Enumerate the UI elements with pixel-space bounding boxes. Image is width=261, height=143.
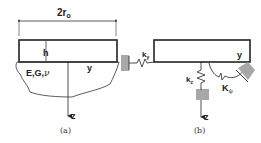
z-axis-label: z [71,111,76,121]
dimension-label: 2ro [57,7,71,19]
rotational-support [238,62,255,80]
caption-b: (b) [194,126,205,135]
foundation-model-diagram: 2ro h E,G,ν y z (a) ky y kz z [0,0,261,143]
kpsi-label: Kψ [222,83,233,94]
caption-a: (a) [60,126,71,135]
y-axis-label: y [87,63,92,73]
ky-label: ky [142,50,149,60]
spring-kz [197,62,205,90]
material-label: E,G,ν [26,68,50,78]
vertical-support [196,91,209,100]
dimension-line [18,19,117,36]
y-axis-label-b: y [237,50,242,60]
panel-a: 2ro h E,G,ν y z (a) [16,7,119,135]
spring-ky [129,59,154,67]
foundation-block-b [154,40,250,62]
horizontal-support [121,55,129,71]
panel-b: ky y kz z Kψ (b) [121,40,255,135]
height-label: h [43,48,49,58]
z-axis-label-b: z [204,112,209,122]
kz-label: kz [186,75,193,85]
foundation-block [19,40,117,62]
